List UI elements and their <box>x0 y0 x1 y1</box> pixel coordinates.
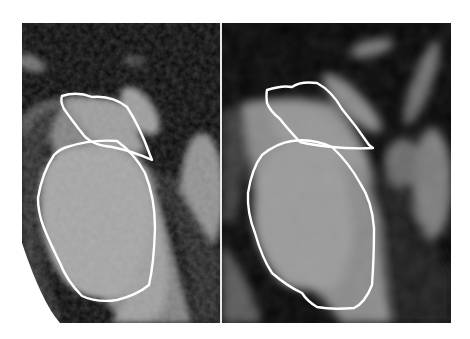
left-ct-image <box>22 23 220 323</box>
right-ct-panel <box>222 23 451 323</box>
right-ct-image <box>222 23 451 323</box>
left-ct-panel <box>22 23 220 323</box>
